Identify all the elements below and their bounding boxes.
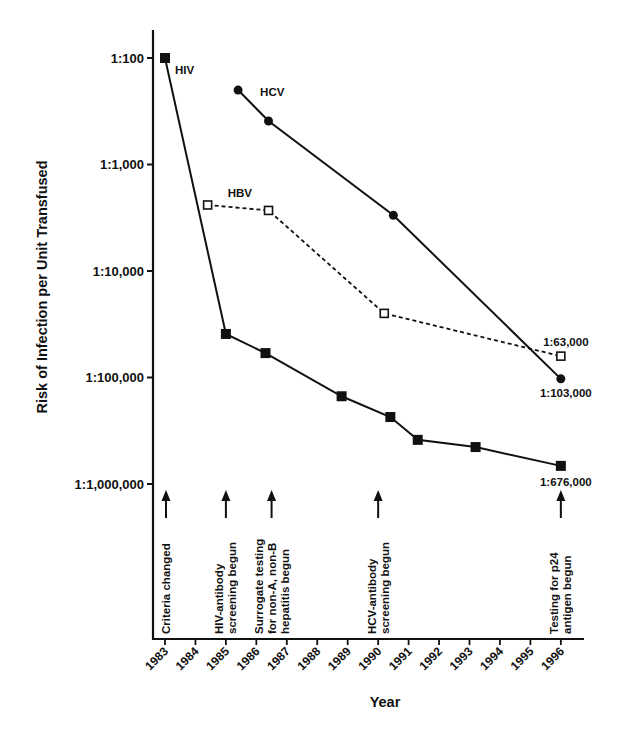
open-square-marker: [380, 309, 388, 317]
annotation: HCV-antibodyscreening begun: [366, 490, 391, 634]
series-line-hbv: [208, 205, 561, 356]
x-tick-label: 1988: [295, 644, 324, 673]
chart-canvas: 1:1001:1,0001:10,0001:100,0001:1,000,000…: [0, 0, 620, 731]
series-hcv: HCV1:103,000: [234, 86, 592, 399]
annotation-text: Surrogate testing: [253, 539, 265, 634]
arrow-up-icon: [162, 490, 171, 501]
annotation-text: HIV-antibody: [213, 563, 225, 634]
arrow-up-icon: [267, 490, 276, 501]
series-label-hcv: HCV: [260, 86, 285, 98]
x-tick-label: 1989: [325, 644, 354, 673]
annotation: HIV-antibodyscreening begun: [213, 490, 238, 634]
x-tick-label: 1992: [416, 644, 445, 673]
filled-circle-marker: [556, 374, 565, 383]
y-tick-label: 1:1,000,000: [75, 477, 144, 492]
risk-of-infection-chart: 1:1001:1,0001:10,0001:100,0001:1,000,000…: [0, 0, 620, 731]
x-tick-label: 1990: [355, 644, 384, 673]
y-tick-label: 1:10,000: [93, 264, 144, 279]
annotation-text: screening begun: [379, 542, 391, 634]
arrow-up-icon: [221, 490, 230, 501]
annotation-text: hepatitis begun: [279, 549, 291, 634]
filled-square-marker: [160, 53, 170, 63]
filled-square-marker: [337, 391, 347, 401]
series-hiv: HIV1:676,000: [160, 53, 592, 488]
x-tick-label: 1993: [447, 644, 476, 673]
filled-square-marker: [385, 412, 395, 422]
filled-circle-marker: [234, 86, 243, 95]
series-line-hiv: [165, 58, 561, 466]
filled-square-marker: [260, 348, 270, 358]
annotation-text: Testing for p24: [548, 552, 560, 634]
y-tick-label: 1:100,000: [85, 370, 144, 385]
filled-circle-marker: [264, 116, 273, 125]
x-tick-label: 1991: [386, 644, 415, 673]
x-tick-label: 1984: [173, 644, 202, 673]
filled-square-marker: [413, 435, 423, 445]
series-line-hcv: [238, 90, 561, 379]
x-tick-label: 1996: [538, 644, 567, 673]
filled-square-marker: [221, 329, 231, 339]
series-label-hiv: HIV: [175, 64, 195, 76]
y-tick-label: 1:1,000: [100, 157, 144, 172]
annotation-text: for non-A, non-B: [266, 543, 278, 634]
annotation: Testing for p24antigen begun: [548, 490, 573, 634]
open-square-marker: [557, 352, 565, 360]
end-value-label-hiv: 1:676,000: [540, 476, 592, 488]
filled-circle-marker: [389, 211, 398, 220]
filled-square-marker: [471, 442, 481, 452]
annotation-text: screening begun: [226, 542, 238, 634]
filled-square-marker: [556, 461, 566, 471]
x-tick-label: 1994: [477, 644, 506, 673]
annotation: Surrogate testingfor non-A, non-Bhepatit…: [253, 490, 291, 634]
annotation-text: Criteria changed: [160, 543, 172, 634]
annotation-text: antigen begun: [561, 555, 573, 634]
x-tick-label: 1987: [264, 644, 293, 673]
annotation-text: HCV-antibody: [366, 558, 378, 634]
data-series: HIV1:676,000HCV1:103,000HBV1:63,000: [160, 53, 592, 488]
x-tick-label: 1985: [203, 644, 232, 673]
arrow-up-icon: [374, 490, 383, 501]
y-tick-label: 1:100: [111, 51, 144, 66]
open-square-marker: [265, 206, 273, 214]
end-value-label-hcv: 1:103,000: [540, 387, 592, 399]
series-label-hbv: HBV: [228, 187, 253, 199]
y-axis-title: Risk of Infection per Unit Transfused: [34, 161, 50, 414]
open-square-marker: [204, 201, 212, 209]
x-axis-title: Year: [370, 694, 401, 710]
x-tick-label: 1986: [234, 644, 263, 673]
arrow-up-icon: [556, 490, 565, 501]
axes: 1:1001:1,0001:10,0001:100,0001:1,000,000…: [75, 30, 584, 673]
annotation: Criteria changed: [160, 490, 172, 634]
event-annotations: Criteria changedHIV-antibodyscreening be…: [160, 490, 573, 634]
end-value-label-hbv: 1:63,000: [543, 336, 588, 348]
x-tick-label: 1995: [508, 644, 537, 673]
x-tick-label: 1983: [142, 644, 171, 673]
